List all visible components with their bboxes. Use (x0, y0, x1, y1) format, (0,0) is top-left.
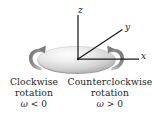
clockwise-caption: Clockwise rotation ω<0 (1, 76, 67, 110)
counterclockwise-omega-symbol: ω (97, 99, 105, 109)
y-axis-label: y (125, 23, 130, 32)
counterclockwise-relation-operator: > (107, 99, 115, 109)
x-axis-label: x (141, 52, 146, 61)
axes-origin (77, 58, 79, 60)
clockwise-relation-operator: < (31, 99, 39, 109)
clockwise-value: 0 (41, 99, 47, 109)
figure-caption: Clockwise rotation ω<0 Counterclockwise … (0, 76, 154, 119)
disk-rotation-diagram: z y x (0, 0, 154, 78)
clockwise-omega-symbol: ω (21, 99, 29, 109)
counterclockwise-condition: ω>0 (67, 99, 153, 110)
rotation-sign-convention-figure: z y x Clockwise rotation ω<0 Countercloc… (0, 0, 154, 119)
z-axis-label: z (78, 6, 83, 15)
clockwise-caption-line-1: Clockwise (1, 76, 67, 87)
counterclockwise-caption: Counterclockwise rotation ω>0 (67, 76, 153, 110)
counterclockwise-caption-line-2: rotation (67, 87, 153, 98)
clockwise-condition: ω<0 (1, 99, 67, 110)
diagram-graphics (0, 0, 154, 78)
counterclockwise-caption-line-1: Counterclockwise (67, 76, 153, 87)
counterclockwise-value: 0 (117, 99, 123, 109)
clockwise-caption-line-2: rotation (1, 87, 67, 98)
